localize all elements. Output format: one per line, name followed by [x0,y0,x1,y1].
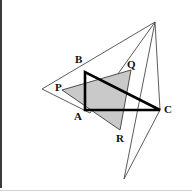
vertex-label-p: P [55,82,62,93]
vertex-label-c: C [164,104,172,115]
vertex-label-r: R [116,133,124,144]
vertex-label-a: A [74,111,82,122]
figure-canvas [0,0,192,196]
vertex-label-b: B [75,54,82,65]
geometry-figure: A B C P Q R [0,0,192,196]
vertex-label-q: Q [127,59,136,70]
frame-left-border [0,0,2,188]
frame-bottom-border [0,190,192,191]
